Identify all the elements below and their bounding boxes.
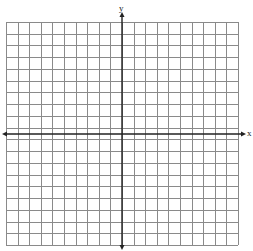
x-axis-label: x — [247, 129, 252, 138]
coordinate-plane — [0, 0, 253, 251]
y-axis-label: y — [119, 4, 124, 13]
y-axis-down-arrow-icon — [120, 245, 125, 250]
x-axis-right-arrow-icon — [241, 132, 246, 137]
x-axis-left-arrow-icon — [2, 132, 7, 137]
